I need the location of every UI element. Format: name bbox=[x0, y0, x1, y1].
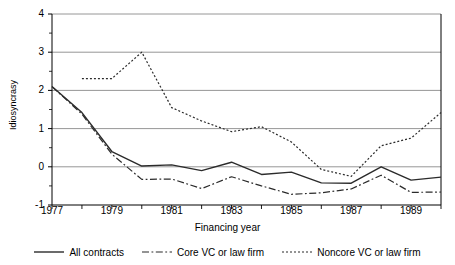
x-tick-label: 1977 bbox=[28, 206, 76, 216]
legend-label: Core VC or law firm bbox=[177, 247, 264, 258]
legend-label: All contracts bbox=[69, 247, 123, 258]
legend-label: Noncore VC or law firm bbox=[317, 247, 420, 258]
x-tick-label: 1985 bbox=[267, 206, 315, 216]
x-tick-label: 1981 bbox=[148, 206, 196, 216]
legend-swatch-solid bbox=[34, 248, 64, 256]
y-tick-label: 1 bbox=[18, 124, 44, 134]
x-tick-label: 1979 bbox=[88, 206, 136, 216]
series-line-1 bbox=[52, 87, 441, 184]
legend-item-3: Noncore VC or law firm bbox=[282, 247, 420, 258]
y-tick-label: 4 bbox=[18, 9, 44, 19]
y-tick-label: 3 bbox=[18, 47, 44, 57]
chart-legend: All contractsCore VC or law firmNoncore … bbox=[0, 243, 455, 261]
y-tick-label: 2 bbox=[18, 85, 44, 95]
x-tick-label: 1987 bbox=[327, 206, 375, 216]
legend-swatch-dashdot bbox=[142, 248, 172, 256]
x-tick-label: 1983 bbox=[208, 206, 256, 216]
legend-item-1: All contracts bbox=[34, 247, 123, 258]
legend-swatch-dotted bbox=[282, 248, 312, 256]
plot-area bbox=[0, 0, 455, 265]
y-tick-label: 0 bbox=[18, 162, 44, 172]
chart-figure: Idiosyncrasy Financing year -101234 1977… bbox=[0, 0, 455, 265]
legend-item-2: Core VC or law firm bbox=[142, 247, 264, 258]
x-tick-label: 1989 bbox=[387, 206, 435, 216]
series-line-3 bbox=[82, 52, 441, 176]
series-line-2 bbox=[52, 87, 441, 195]
